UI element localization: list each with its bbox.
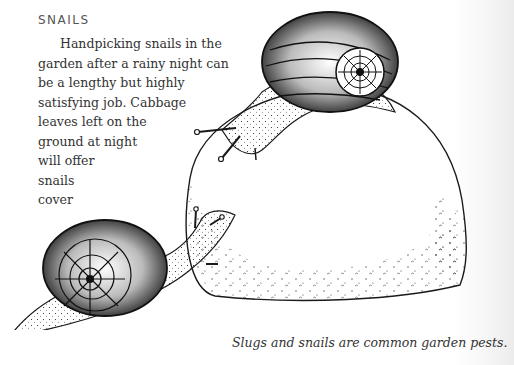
snails-illustration <box>0 0 514 330</box>
rock-drawing <box>186 88 466 301</box>
book-page: SNAILS Handpicking snails in the garden … <box>0 0 514 365</box>
figure-caption: Slugs and snails are common garden pests… <box>232 335 507 350</box>
